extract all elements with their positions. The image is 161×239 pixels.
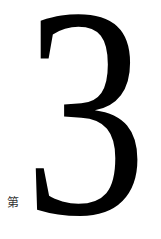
chapter-number: 3 (24, 0, 147, 239)
chapter-prefix: 第 (7, 196, 19, 210)
